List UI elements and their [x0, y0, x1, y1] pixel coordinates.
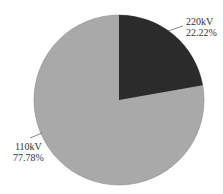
label-110kv-name: 110kV [13, 141, 44, 152]
label-110kv: 110kV 77.78% [13, 141, 44, 163]
label-220kv-name: 220kV [186, 16, 217, 27]
label-220kv-pct: 22.22% [186, 27, 217, 38]
label-110kv-pct: 77.78% [13, 152, 44, 163]
label-220kv: 220kV 22.22% [186, 16, 217, 38]
leader-110kv [30, 133, 42, 138]
leader-220kv [168, 26, 183, 31]
